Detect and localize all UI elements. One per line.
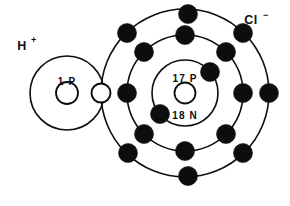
electron [135, 43, 154, 62]
electron [119, 144, 138, 163]
chlorine-proton-label: 17 P [173, 73, 198, 84]
diagram-canvas: H + 1 P Cl − 17 P 18 N [0, 0, 290, 206]
electron [135, 125, 154, 144]
chlorine-charge-label: − [263, 10, 269, 20]
bohr-model-diagram: H + 1 P Cl − 17 P 18 N [0, 0, 290, 206]
electron [179, 5, 198, 24]
chlorine-neutron-label: 18 N [172, 110, 198, 121]
chlorine-symbol-label: Cl [244, 13, 258, 27]
electron [176, 26, 195, 45]
shared-electron-pair [92, 84, 111, 103]
hydrogen-nucleus-label: 1 P [58, 76, 76, 87]
electron [201, 63, 220, 82]
electron [118, 84, 137, 103]
electron [234, 84, 253, 103]
hydrogen-charge-label: + [31, 35, 37, 45]
electron [260, 84, 279, 103]
hydrogen-symbol-label: H [17, 39, 27, 53]
electron [151, 105, 170, 124]
electron [176, 142, 195, 161]
electron [217, 43, 236, 62]
electron [234, 144, 253, 163]
electron [118, 24, 137, 43]
chlorine-nucleus [175, 83, 196, 104]
electron [217, 125, 236, 144]
outer-shell-electrons [118, 5, 279, 186]
electron [179, 167, 198, 186]
